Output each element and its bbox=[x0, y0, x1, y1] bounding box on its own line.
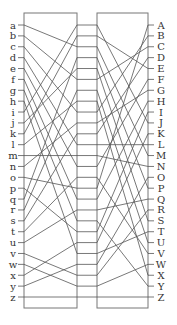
right-label-P: P bbox=[158, 183, 165, 194]
right-label-J: J bbox=[158, 117, 163, 128]
right-label-U: U bbox=[157, 237, 165, 248]
left-wire bbox=[24, 69, 77, 123]
left-wire bbox=[24, 58, 77, 145]
right-label-C: C bbox=[157, 41, 165, 52]
left-label-j: j bbox=[10, 117, 14, 128]
left-label-k: k bbox=[10, 128, 17, 139]
left-label-n: n bbox=[10, 161, 17, 172]
left-label-z: z bbox=[10, 292, 15, 303]
left-wire bbox=[24, 243, 77, 276]
right-label-I: I bbox=[159, 107, 163, 118]
right-label-D: D bbox=[157, 52, 165, 63]
left-label-e: e bbox=[10, 63, 16, 74]
right-label-E: E bbox=[157, 63, 164, 74]
right-label-H: H bbox=[157, 96, 166, 107]
right-label-B: B bbox=[157, 30, 164, 41]
right-letter-labels: ABCDEFGHIJKLMNOPQRSTUVWXYZ bbox=[156, 20, 167, 303]
right-label-R: R bbox=[157, 204, 165, 215]
right-label-K: K bbox=[157, 128, 165, 139]
right-label-G: G bbox=[157, 85, 165, 96]
left-wire bbox=[24, 177, 77, 231]
left-wire bbox=[24, 210, 77, 243]
left-label-r: r bbox=[11, 204, 16, 215]
left-wire bbox=[24, 25, 77, 47]
right-label-A: A bbox=[156, 20, 165, 31]
right-label-M: M bbox=[156, 150, 166, 161]
left-wire bbox=[24, 253, 77, 275]
right-wire bbox=[97, 25, 148, 188]
left-label-f: f bbox=[11, 74, 16, 85]
left-label-b: b bbox=[10, 30, 16, 41]
right-label-W: W bbox=[156, 259, 167, 270]
right-label-Z: Z bbox=[158, 292, 165, 303]
left-label-g: g bbox=[10, 85, 17, 96]
right-wire bbox=[97, 112, 148, 232]
left-label-s: s bbox=[10, 215, 15, 226]
left-label-u: u bbox=[10, 237, 17, 248]
left-label-c: c bbox=[10, 41, 16, 52]
left-label-h: h bbox=[10, 96, 17, 107]
left-wire bbox=[24, 25, 77, 112]
left-label-m: m bbox=[8, 150, 18, 161]
right-rotor-wires bbox=[97, 25, 148, 297]
left-label-v: v bbox=[9, 248, 16, 259]
left-label-t: t bbox=[11, 226, 15, 237]
right-label-O: O bbox=[157, 172, 165, 183]
right-label-X: X bbox=[157, 270, 165, 281]
left-wire bbox=[24, 188, 77, 232]
left-label-i: i bbox=[11, 107, 14, 118]
left-label-y: y bbox=[9, 281, 16, 292]
right-rotor-frame bbox=[97, 13, 148, 308]
right-wire bbox=[97, 221, 148, 286]
left-label-q: q bbox=[10, 194, 17, 205]
left-label-a: a bbox=[10, 20, 16, 31]
left-wire bbox=[24, 36, 77, 134]
left-wire bbox=[24, 79, 77, 199]
right-label-F: F bbox=[158, 74, 165, 85]
middle-contact-ladder bbox=[77, 25, 97, 297]
left-label-x: x bbox=[10, 270, 16, 281]
right-label-S: S bbox=[158, 215, 165, 226]
left-rotor-wires bbox=[24, 25, 77, 297]
right-contact-ticks bbox=[148, 25, 154, 297]
right-label-V: V bbox=[156, 248, 165, 259]
right-label-N: N bbox=[157, 161, 166, 172]
right-label-T: T bbox=[158, 226, 165, 237]
left-contact-ticks bbox=[18, 25, 24, 297]
rotor-wiring-diagram: abcdefghijklmnopqrstuvwxyz ABCDEFGHIJKLM… bbox=[0, 0, 177, 325]
left-wire bbox=[24, 36, 77, 80]
left-label-o: o bbox=[10, 172, 16, 183]
right-wire bbox=[97, 264, 148, 286]
left-label-w: w bbox=[9, 259, 18, 270]
left-label-l: l bbox=[11, 139, 14, 150]
right-label-Y: Y bbox=[157, 281, 165, 292]
left-wire bbox=[24, 90, 77, 210]
right-label-L: L bbox=[158, 139, 165, 150]
right-wire bbox=[97, 199, 148, 210]
left-label-p: p bbox=[10, 183, 16, 194]
right-label-Q: Q bbox=[157, 194, 165, 205]
left-letter-labels: abcdefghijklmnopqrstuvwxyz bbox=[8, 20, 18, 303]
left-wire bbox=[24, 69, 77, 167]
left-label-d: d bbox=[10, 52, 17, 63]
